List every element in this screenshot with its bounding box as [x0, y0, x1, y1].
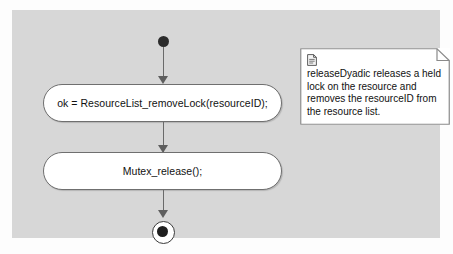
note-text: releaseDyadic releases a held lock on th… [307, 68, 443, 118]
activity-node-mutex-release[interactable]: Mutex_release(); [43, 152, 282, 190]
diagram-page: ok = ResourceList_removeLock(resourceID)… [0, 0, 453, 254]
activity-node-label: ok = ResourceList_removeLock(resourceID)… [57, 97, 268, 109]
activity-node-label: Mutex_release(); [123, 165, 203, 177]
note-content: releaseDyadic releases a held lock on th… [300, 48, 450, 125]
final-node[interactable] [152, 221, 175, 244]
initial-node[interactable] [158, 36, 169, 47]
final-node-inner-disc [157, 226, 168, 237]
note-box[interactable]: releaseDyadic releases a held lock on th… [300, 48, 450, 125]
document-icon [307, 54, 317, 66]
activity-node-remove-lock[interactable]: ok = ResourceList_removeLock(resourceID)… [43, 84, 282, 122]
diagram-canvas: ok = ResourceList_removeLock(resourceID)… [12, 10, 440, 238]
arrowhead-icon [158, 210, 168, 218]
arrowhead-icon [158, 76, 168, 84]
